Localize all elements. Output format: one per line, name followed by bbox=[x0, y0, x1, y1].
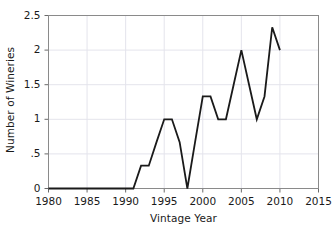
x-tick-label: 2015 bbox=[302, 196, 336, 207]
y-tick-label: 1 bbox=[15, 113, 41, 124]
y-tick-label: 0 bbox=[15, 183, 41, 194]
y-tick-label: 2.5 bbox=[15, 10, 41, 21]
x-tick-label: 1980 bbox=[32, 196, 66, 207]
x-tick-label: 2010 bbox=[263, 196, 297, 207]
x-tick-label: 1990 bbox=[109, 196, 143, 207]
y-tick-label: 2 bbox=[15, 44, 41, 55]
y-tick-label: .5 bbox=[15, 148, 41, 159]
x-tick-label: 1985 bbox=[70, 196, 104, 207]
x-tick-label: 1995 bbox=[147, 196, 181, 207]
x-tick-label: 2005 bbox=[224, 196, 258, 207]
y-tick-label: 1.5 bbox=[15, 79, 41, 90]
x-tick-label: 2000 bbox=[186, 196, 220, 207]
